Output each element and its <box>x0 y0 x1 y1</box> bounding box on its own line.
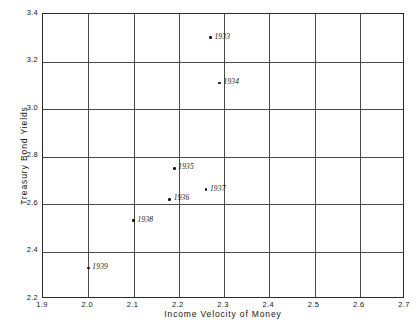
data-point-marker <box>205 188 208 191</box>
gridline-horizontal <box>43 109 403 110</box>
x-tick-label: 2.2 <box>158 300 198 309</box>
gridline-vertical <box>360 14 361 297</box>
y-tick-label: 3.2 <box>20 55 38 64</box>
gridline-horizontal <box>43 157 403 158</box>
y-tick-label: 2.8 <box>20 150 38 159</box>
scatter-chart-figure: Treasury Bond Yields 1933193419351936193… <box>0 0 419 324</box>
x-tick-label: 2.5 <box>294 300 334 309</box>
data-point-label: 1935 <box>178 162 194 171</box>
data-point-label: 1934 <box>223 77 239 86</box>
x-tick-label: 2.0 <box>67 300 107 309</box>
data-point-label: 1933 <box>214 32 230 41</box>
data-point-marker <box>209 36 212 39</box>
y-tick-label: 2.2 <box>20 293 38 302</box>
x-tick-label: 2.4 <box>248 300 288 309</box>
gridline-vertical <box>315 14 316 297</box>
x-tick-label: 2.7 <box>384 300 419 309</box>
data-point-label: 1937 <box>210 184 226 193</box>
x-tick-label: 2.6 <box>339 300 379 309</box>
gridline-vertical <box>269 14 270 297</box>
gridline-vertical <box>179 14 180 297</box>
gridline-horizontal <box>43 252 403 253</box>
data-point-label: 1936 <box>174 193 190 202</box>
x-tick-label: 2.3 <box>203 300 243 309</box>
x-axis-title: Income Velocity of Money <box>42 309 404 319</box>
plot-area: 1933193419351936193719381939 <box>42 13 404 298</box>
y-tick-label: 3.4 <box>20 8 38 17</box>
data-point-label: 1939 <box>92 262 108 271</box>
data-point-marker <box>168 198 171 201</box>
data-point-label: 1938 <box>138 215 154 224</box>
y-tick-label: 3.0 <box>20 103 38 112</box>
data-point-marker <box>173 167 176 170</box>
data-point-marker <box>132 219 135 222</box>
gridline-vertical <box>134 14 135 297</box>
gridline-vertical <box>224 14 225 297</box>
data-point-marker <box>218 82 221 85</box>
gridline-vertical <box>88 14 89 297</box>
gridline-horizontal <box>43 62 403 63</box>
gridline-horizontal <box>43 204 403 205</box>
x-tick-label: 2.1 <box>113 300 153 309</box>
y-tick-label: 2.4 <box>20 245 38 254</box>
y-tick-label: 2.6 <box>20 198 38 207</box>
